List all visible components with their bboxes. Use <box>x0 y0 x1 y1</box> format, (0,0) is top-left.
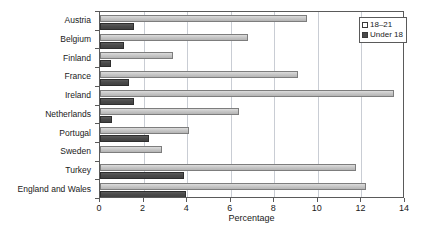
x-axis-tick <box>99 198 100 202</box>
bar-age-under-18 <box>100 135 149 142</box>
y-axis-label: Portugal <box>59 128 91 138</box>
y-axis-tick <box>95 142 99 143</box>
bar-age-under-18 <box>100 116 112 123</box>
y-axis-label: Ireland <box>65 90 91 100</box>
bar-chart: AustriaBelgiumFinlandFranceIrelandNether… <box>0 0 432 232</box>
y-axis-labels: AustriaBelgiumFinlandFranceIrelandNether… <box>0 11 95 198</box>
y-axis-label: Finland <box>63 53 91 63</box>
bar-age-18-21 <box>100 164 356 171</box>
y-axis-label: Netherlands <box>45 109 91 119</box>
legend-swatch-icon <box>362 22 368 28</box>
x-axis-tick <box>230 198 231 202</box>
legend-item: 18–21 <box>362 20 403 30</box>
bar-group <box>100 12 403 31</box>
bar-age-18-21 <box>100 15 307 22</box>
bar-age-under-18 <box>100 191 186 198</box>
y-axis-label: England and Wales <box>18 184 91 194</box>
bar-group <box>100 106 403 125</box>
bar-age-under-18 <box>100 172 184 179</box>
y-axis-tick <box>95 67 99 68</box>
y-axis-label: Austria <box>65 15 91 25</box>
x-axis-tick <box>404 198 405 202</box>
legend-item: Under 18 <box>362 30 403 40</box>
bar-age-18-21 <box>100 52 173 59</box>
y-axis-tick <box>95 105 99 106</box>
x-axis-title: Percentage <box>99 213 404 223</box>
y-axis-label: Sweden <box>60 146 91 156</box>
x-axis-tick <box>186 198 187 202</box>
bar-age-18-21 <box>100 146 162 153</box>
y-axis-label: France <box>65 71 91 81</box>
x-axis-tick <box>317 198 318 202</box>
bar-age-18-21 <box>100 127 189 134</box>
y-axis-tick <box>95 30 99 31</box>
x-axis-tick <box>273 198 274 202</box>
x-axis-tick <box>360 198 361 202</box>
bar-group <box>100 143 403 162</box>
legend: 18–21Under 18 <box>359 17 407 43</box>
y-axis-tick <box>95 123 99 124</box>
y-axis-tick <box>95 179 99 180</box>
legend-label: 18–21 <box>370 20 392 30</box>
y-axis-label: Belgium <box>60 34 91 44</box>
y-axis-tick <box>95 48 99 49</box>
bar-group <box>100 87 403 106</box>
legend-swatch-icon <box>362 32 368 38</box>
bar-age-18-21 <box>100 183 366 190</box>
x-axis-tick <box>143 198 144 202</box>
bar-age-under-18 <box>100 23 134 30</box>
bar-age-18-21 <box>100 34 248 41</box>
bar-group <box>100 162 403 181</box>
bar-group <box>100 180 403 198</box>
legend-label: Under 18 <box>370 30 403 40</box>
y-axis-label: Turkey <box>65 165 91 175</box>
bar-age-under-18 <box>100 60 111 67</box>
bar-age-18-21 <box>100 90 394 97</box>
y-axis-tick <box>95 86 99 87</box>
y-axis-tick <box>95 161 99 162</box>
bar-group <box>100 68 403 87</box>
bar-group <box>100 124 403 143</box>
bar-age-under-18 <box>100 98 134 105</box>
bar-age-under-18 <box>100 42 124 49</box>
bar-age-18-21 <box>100 71 298 78</box>
y-axis-tick <box>95 11 99 12</box>
bar-group <box>100 31 403 50</box>
bar-age-18-21 <box>100 108 239 115</box>
bar-age-under-18 <box>100 79 129 86</box>
bar-group <box>100 49 403 68</box>
x-axis: 02468101214 <box>99 198 404 214</box>
